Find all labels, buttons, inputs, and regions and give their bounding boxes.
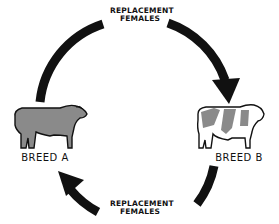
top-label-line2: FEMALES <box>110 15 170 23</box>
solid-dark-bull-icon <box>15 105 87 148</box>
breed-a-label: BREED A <box>10 152 80 163</box>
arc-bottom-left <box>70 189 98 212</box>
cycle-diagram <box>0 0 279 224</box>
arc-top-left <box>40 24 103 102</box>
arc-bottom-right <box>197 166 214 204</box>
arrowhead-down-icon <box>212 78 240 104</box>
breed-b-label: BREED B <box>204 152 274 163</box>
top-edge-label: REPLACEMENT FEMALES <box>110 7 170 24</box>
bottom-label-line2: FEMALES <box>110 208 170 216</box>
arc-top-right <box>168 23 225 80</box>
bottom-edge-label: REPLACEMENT FEMALES <box>110 200 170 217</box>
spotted-bull-icon <box>198 105 264 148</box>
